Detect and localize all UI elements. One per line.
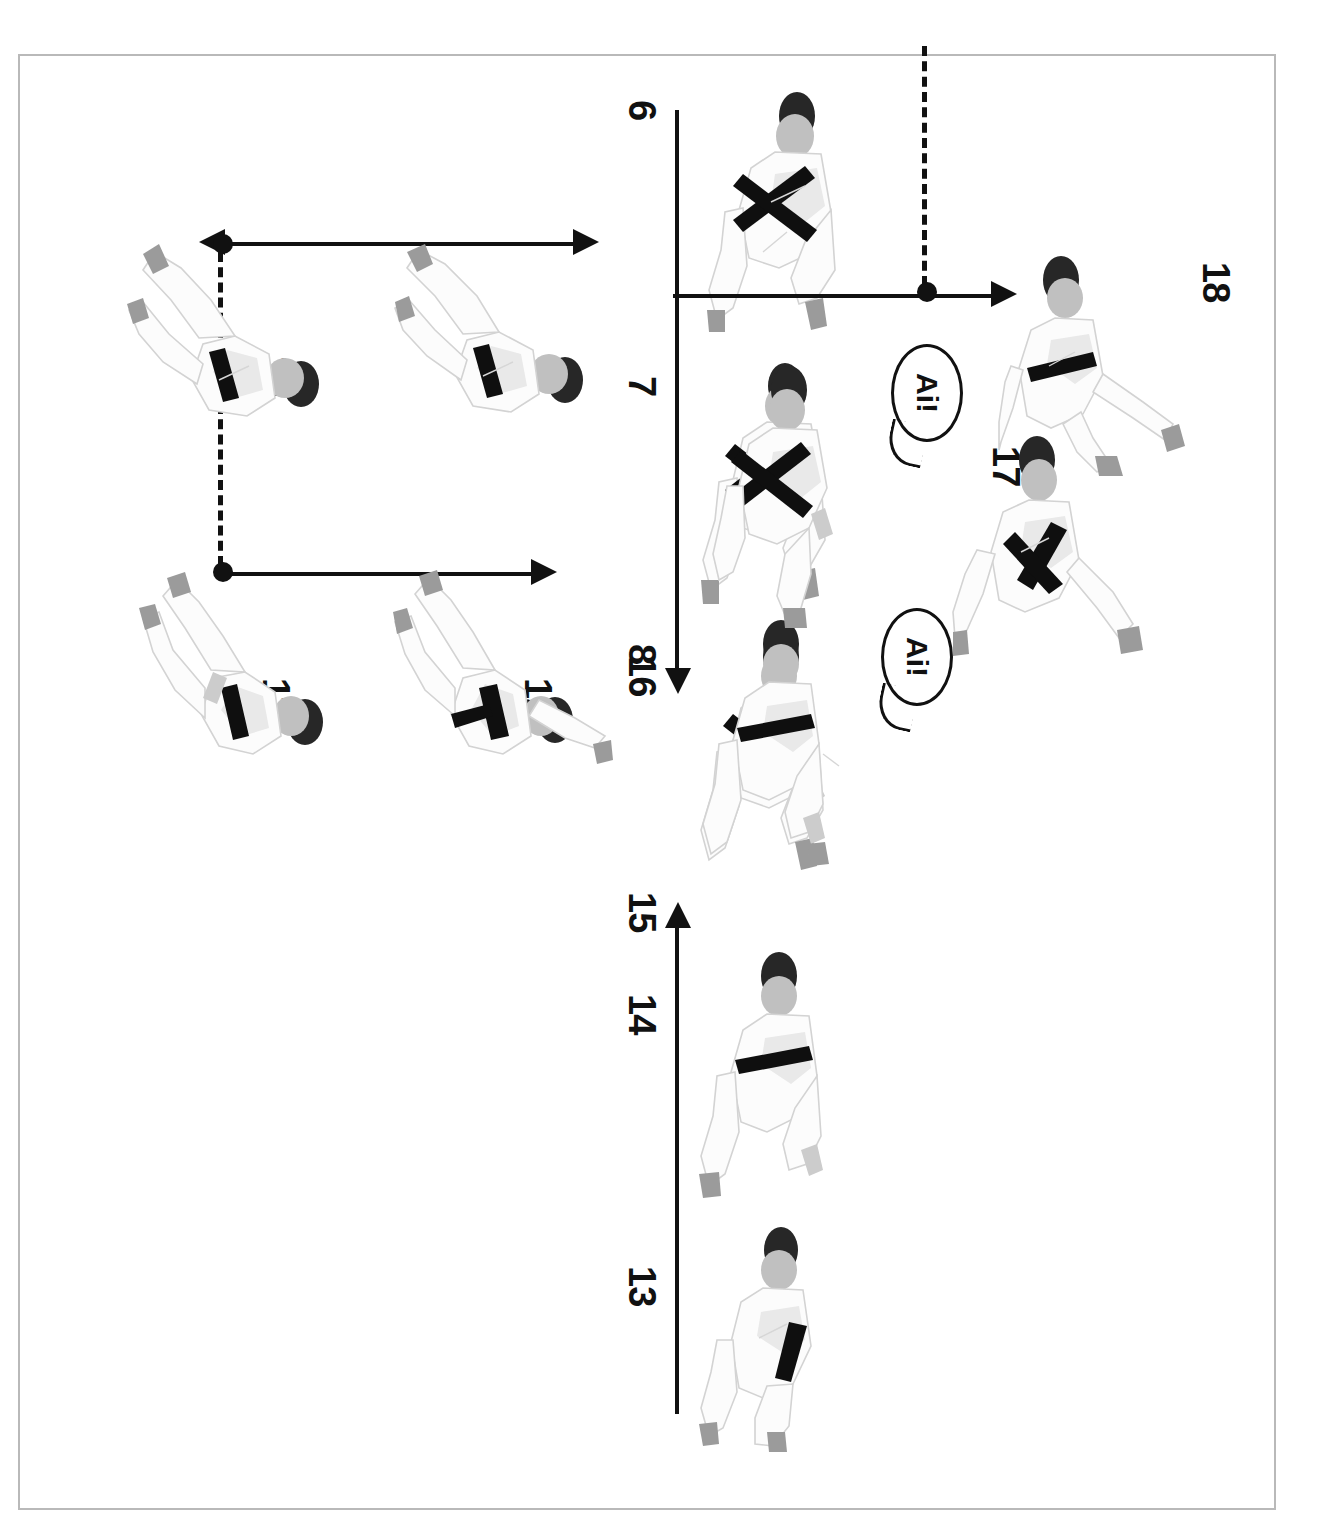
callout-text: Ai! bbox=[910, 373, 944, 413]
callout-text: Ai! bbox=[900, 637, 934, 677]
figure-step-14 bbox=[675, 948, 875, 1198]
bubble-tail-icon bbox=[884, 419, 929, 469]
step-label-7: 7 bbox=[623, 376, 661, 396]
rotated-content-canvas: 6 7 8 bbox=[21, 56, 1275, 1506]
figure-step-16 bbox=[677, 358, 877, 628]
step-label-13: 13 bbox=[623, 1266, 661, 1306]
figure-step-10 bbox=[125, 234, 335, 449]
guide-17-18-dashed-line bbox=[922, 46, 927, 286]
bubble-tail-icon bbox=[874, 683, 919, 733]
arrow-16-18-rise-line bbox=[673, 294, 993, 298]
guide-17-18-dot bbox=[917, 282, 937, 302]
scanned-page: .. 6 7 8 bbox=[0, 0, 1340, 1534]
step-label-16: 16 bbox=[623, 656, 661, 696]
figure-step-12 bbox=[393, 566, 613, 766]
callout-bubble-ai-step-8: Ai! bbox=[881, 608, 953, 706]
step-label-6: 6 bbox=[623, 100, 661, 120]
figure-step-13 bbox=[683, 1222, 873, 1452]
figure-step-15 bbox=[675, 616, 875, 866]
step-label-14: 14 bbox=[623, 994, 661, 1034]
figure-step-9 bbox=[395, 234, 595, 444]
figure-step-11 bbox=[135, 566, 345, 766]
step-label-15: 15 bbox=[623, 892, 661, 932]
figure-step-18 bbox=[999, 246, 1189, 476]
step-label-18: 18 bbox=[1197, 262, 1235, 302]
arrow-13-15-run-head bbox=[665, 902, 691, 928]
